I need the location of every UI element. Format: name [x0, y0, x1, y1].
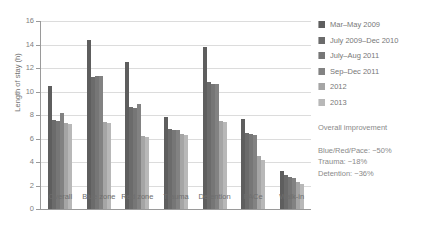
- annotation-heading: Overall improvement: [318, 122, 426, 134]
- bar-group: [41, 21, 80, 209]
- legend-swatch-icon: [318, 99, 325, 106]
- bar-group: [195, 21, 234, 209]
- legend-item: 2012: [318, 79, 424, 95]
- legend-item: 2013: [318, 95, 424, 111]
- chart-figure: Length of stay (h) 0246810121416 Overall…: [0, 0, 426, 239]
- legend-item: July–Aug 2011: [318, 48, 424, 64]
- legend-item: Sep–Dec 2011: [318, 64, 424, 80]
- legend-swatch-icon: [318, 83, 325, 90]
- y-tick-label-10: 10: [0, 88, 34, 96]
- bar-group: [272, 21, 311, 209]
- bar-group: [157, 21, 196, 209]
- bar: [261, 160, 265, 209]
- y-tick-label-8: 8: [0, 111, 34, 119]
- annotations: Overall improvement Blue/Red/Pace: −50% …: [318, 122, 426, 179]
- legend-swatch-icon: [318, 52, 325, 59]
- annotation-line-0: Blue/Red/Pace: −50%: [318, 145, 426, 157]
- bar-group: [80, 21, 119, 209]
- legend-label: July 2009–Dec 2010: [330, 36, 398, 45]
- x-axis-label-walk-in: Walk-in: [262, 192, 322, 201]
- y-tick-label-4: 4: [0, 158, 34, 166]
- x-axis-line: [40, 209, 311, 210]
- annotation-line-2: Detention: −36%: [318, 168, 426, 180]
- bar-group: [234, 21, 273, 209]
- legend-label: 2012: [330, 82, 347, 91]
- legend-swatch-icon: [318, 37, 325, 44]
- legend-label: Sep–Dec 2011: [330, 67, 379, 76]
- annotation-line-1: Trauma: −18%: [318, 156, 426, 168]
- y-tick-label-12: 12: [0, 64, 34, 72]
- y-tick-label-0: 0: [0, 205, 34, 213]
- legend-label: 2013: [330, 98, 347, 107]
- legend-item: July 2009–Dec 2010: [318, 33, 424, 49]
- y-tick-label-14: 14: [0, 41, 34, 49]
- bar-group: [118, 21, 157, 209]
- plot-area: [41, 21, 311, 209]
- y-tick-label-6: 6: [0, 135, 34, 143]
- y-tick-label-2: 2: [0, 182, 34, 190]
- y-tick-mark: [36, 209, 41, 210]
- y-tick-label-16: 16: [0, 17, 34, 25]
- legend-label: July–Aug 2011: [330, 51, 379, 60]
- legend: Mar–May 2009July 2009–Dec 2010July–Aug 2…: [318, 17, 424, 110]
- legend-label: Mar–May 2009: [330, 20, 380, 29]
- legend-item: Mar–May 2009: [318, 17, 424, 33]
- legend-swatch-icon: [318, 21, 325, 28]
- legend-swatch-icon: [318, 68, 325, 75]
